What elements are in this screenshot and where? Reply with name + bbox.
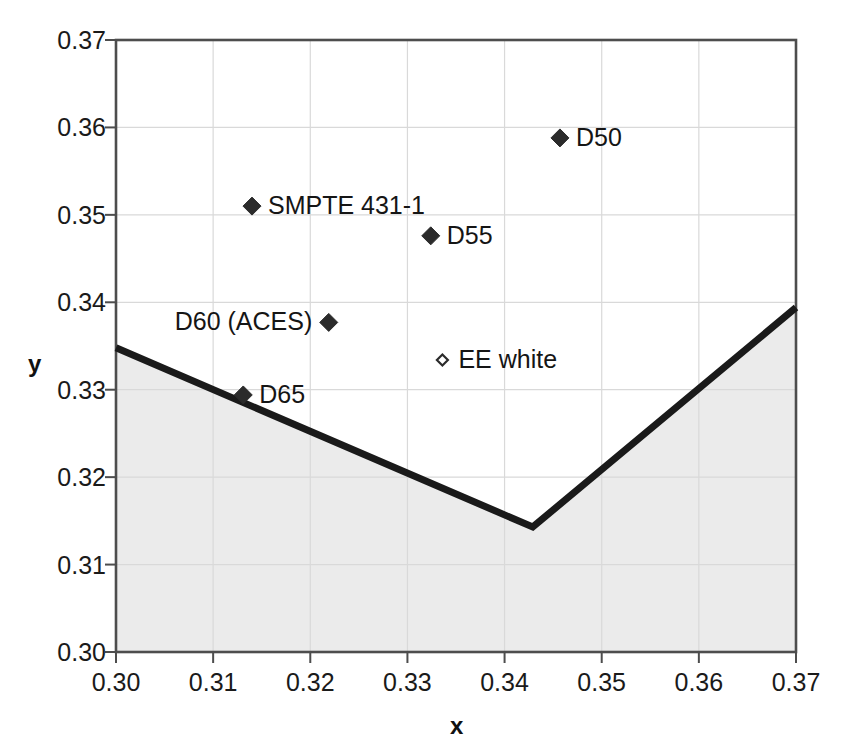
y-axis-tick-label: 0.31 — [38, 553, 106, 578]
y-axis-tick-label: 0.35 — [38, 203, 106, 228]
x-axis-title: x — [450, 714, 463, 738]
data-point-label: D65 — [259, 382, 305, 407]
y-axis-tick-label: 0.33 — [38, 378, 106, 403]
y-axis-tick-label: 0.37 — [38, 28, 106, 53]
shaded-region — [116, 308, 796, 652]
chart-figure: 0.300.310.320.330.340.350.360.370.300.31… — [0, 0, 851, 745]
data-point-label: SMPTE 431-1 — [268, 193, 425, 218]
x-axis-tick-label: 0.32 — [260, 670, 360, 695]
y-axis-title: y — [28, 352, 41, 376]
x-axis-tick-label: 0.36 — [649, 670, 749, 695]
data-point-marker[interactable] — [437, 354, 448, 365]
data-point-label: D55 — [447, 223, 493, 248]
data-point-label: EE white — [458, 347, 557, 372]
y-axis-tick-label: 0.34 — [38, 290, 106, 315]
plot-canvas — [0, 0, 851, 745]
x-axis-tick-label: 0.34 — [455, 670, 555, 695]
data-point-marker[interactable] — [320, 313, 338, 331]
x-axis-tick-label: 0.37 — [746, 670, 846, 695]
y-axis-tick-label: 0.30 — [38, 640, 106, 665]
y-axis-tick-label: 0.36 — [38, 115, 106, 140]
data-point-marker[interactable] — [422, 227, 440, 245]
x-axis-tick-label: 0.35 — [552, 670, 652, 695]
y-axis-tick-label: 0.32 — [38, 465, 106, 490]
data-point-label: D60 (ACES) — [175, 309, 313, 334]
data-point-label: D50 — [576, 125, 622, 150]
data-point-marker[interactable] — [243, 197, 261, 215]
x-axis-tick-label: 0.31 — [163, 670, 263, 695]
x-axis-tick-label: 0.33 — [357, 670, 457, 695]
data-point-marker[interactable] — [551, 129, 569, 147]
x-axis-tick-label: 0.30 — [66, 670, 166, 695]
